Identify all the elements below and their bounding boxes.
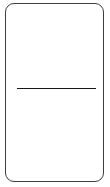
horizontal-divider-line — [17, 88, 96, 89]
panel-card — [5, 3, 104, 182]
divider-container — [17, 87, 96, 90]
panel-upper-region — [6, 4, 103, 91]
panel-lower-region-text — [6, 91, 7, 92]
panel-lower-region — [6, 91, 103, 181]
panel-upper-region-text — [6, 4, 7, 5]
screenshot-canvas — [0, 0, 110, 187]
panel-body — [6, 4, 103, 181]
